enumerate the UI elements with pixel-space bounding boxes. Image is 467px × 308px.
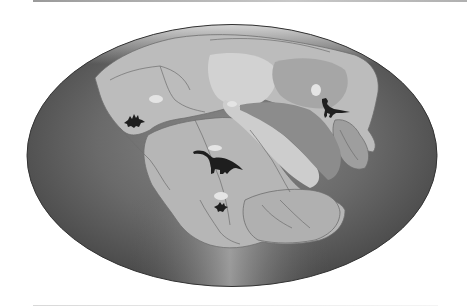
pangaea-map <box>0 0 467 308</box>
antarctica-australia-landmass <box>243 189 340 243</box>
